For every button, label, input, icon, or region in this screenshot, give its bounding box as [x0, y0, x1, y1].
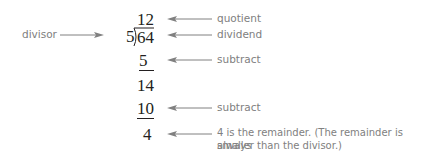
subtract-arrow-2 — [167, 103, 213, 113]
quotient-label: quotient — [217, 12, 261, 25]
subtract-label-2: subtract — [217, 101, 261, 114]
quotient-arrow — [167, 14, 213, 24]
dividend-arrow — [167, 30, 213, 40]
divisor-label: divisor — [22, 28, 57, 41]
subtract-step-1: 5 — [139, 52, 154, 71]
remainder-label-line-2: smaller than the divisor.) — [217, 140, 342, 153]
dividend-label: dividend — [217, 28, 262, 41]
subtract-label-1: subtract — [217, 53, 261, 66]
remainder: 4 — [143, 126, 152, 143]
step-1-result: 14 — [137, 77, 154, 94]
divisor-arrow — [60, 30, 105, 40]
quotient: 12 — [137, 11, 154, 28]
remainder-arrow — [167, 129, 213, 139]
subtract-arrow-1 — [167, 55, 213, 65]
dividend: 64 — [137, 29, 154, 46]
subtract-step-2: 10 — [137, 100, 154, 119]
